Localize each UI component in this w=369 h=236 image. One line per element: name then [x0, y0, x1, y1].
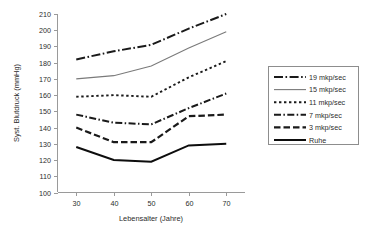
y-tick-label: 120: [39, 156, 51, 165]
y-tick-label: 110: [40, 172, 51, 181]
x-tick-label: 30: [73, 199, 81, 208]
y-tick-label: 150: [39, 107, 51, 116]
y-axis-title: Syst. Blutdruck (mmHg): [12, 64, 21, 142]
chart-figure: 100110120130140150160170180190200210 304…: [0, 0, 369, 236]
legend-label-15-mkp-sec: 15 mkp/sec: [309, 85, 346, 94]
y-tick-label: 140: [39, 124, 51, 133]
x-axis-ticks: [77, 193, 227, 197]
y-tick-label: 170: [39, 75, 51, 84]
y-tick-label: 200: [39, 26, 51, 35]
legend-label-11-mkp-sec: 11 mkp/sec: [309, 98, 346, 107]
y-tick-label: 190: [39, 42, 51, 51]
y-tick-label: 100: [39, 189, 51, 198]
x-tick-label: 60: [186, 199, 194, 208]
y-tick-label: 210: [39, 10, 51, 19]
chart-legend: 19 mkp/sec15 mkp/sec11 mkp/sec7 mkp/sec3…: [269, 67, 359, 145]
x-tick-label: 70: [223, 199, 231, 208]
x-axis-tick-labels: 3040506070: [73, 199, 231, 208]
legend-label-3-mkp-sec: 3 mkp/sec: [309, 123, 342, 132]
y-axis: 100110120130140150160170180190200210: [39, 10, 58, 198]
legend-label-ruhe: Ruhe: [309, 136, 326, 145]
legend-label-7-mkp-sec: 7 mkp/sec: [309, 111, 342, 120]
y-tick-label: 160: [39, 91, 51, 100]
blood-pressure-line-chart: 100110120130140150160170180190200210 304…: [0, 0, 369, 236]
x-tick-label: 50: [148, 199, 156, 208]
x-axis: 3040506070: [58, 193, 246, 209]
y-tick-label: 130: [39, 140, 51, 149]
y-tick-label: 180: [39, 59, 51, 68]
y-axis-tick-labels: 100110120130140150160170180190200210: [39, 10, 51, 198]
x-tick-label: 40: [111, 199, 119, 208]
legend-label-19-mkp-sec: 19 mkp/sec: [309, 73, 346, 82]
y-axis-ticks: [54, 15, 58, 194]
x-axis-title: Lebensalter (Jahre): [119, 214, 183, 223]
